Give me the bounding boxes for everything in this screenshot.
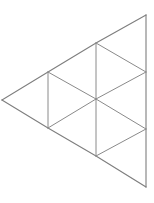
figure-canvas [0,0,154,203]
triangular-net-diagram [0,0,154,203]
